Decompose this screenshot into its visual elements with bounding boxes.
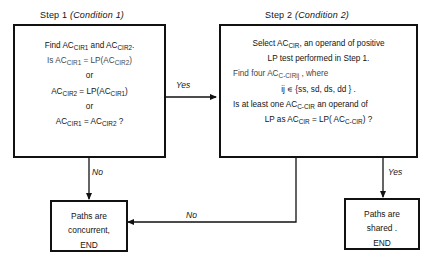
terminal-shared-box[interactable]: Paths are shared . END — [344, 198, 420, 250]
step1-line-1: Find ACCIR1 and ACCIR2. — [15, 42, 164, 50]
terminal-concurrent-text: Paths are concurrent, END — [52, 212, 126, 255]
step1-box[interactable]: Find ACCIR1 and ACCIR2. Is ACCIR1 = LP(A… — [13, 24, 166, 158]
step2-title: Step 2 — [265, 10, 292, 20]
terminal-shared-line-3: END — [346, 239, 418, 247]
step2-line-2: LP test performed in Step 1. — [221, 55, 416, 63]
step1-body: Find ACCIR1 and ACCIR2. Is ACCIR1 = LP(A… — [15, 42, 164, 126]
step2-body: Select ACCIR, an operand of positive LP … — [221, 40, 416, 124]
flowchart-canvas: Step 1 (Condition 1) Step 2 (Condition 2… — [0, 0, 432, 263]
step2-line-6: LP as ACCIR = LP( ACC-CIR) ? — [221, 116, 416, 124]
edge-label-yes-step1-step2: Yes — [176, 80, 190, 90]
step1-condition: (Condition 1) — [70, 10, 124, 20]
terminal-concurrent-line-2: concurrent, — [52, 226, 126, 234]
terminal-shared-line-1: Paths are — [346, 210, 418, 218]
step2-condition: (Condition 2) — [295, 10, 349, 20]
step2-line-4: ij ∊ {ss, sd, ds, dd } . — [221, 86, 416, 94]
step1-line-2: Is ACCIR1 = LP(ACCIR2) — [15, 57, 164, 65]
step1-line-4: ACCIR1 = ACCIR2 ? — [15, 118, 164, 126]
terminal-shared-line-2: shared . — [346, 224, 418, 232]
terminal-concurrent-line-1: Paths are — [52, 212, 126, 220]
edge-label-yes-step2-shared: Yes — [388, 167, 402, 177]
step2-box[interactable]: Select ACCIR, an operand of positive LP … — [219, 24, 418, 158]
edge-label-no-step2-concurrent: No — [186, 210, 197, 220]
terminal-concurrent-line-3: END — [52, 241, 126, 249]
edge-label-no-step1-concurrent: No — [92, 167, 103, 177]
step1-or-1: or — [15, 72, 164, 80]
step2-line-5: Is at least one ACC-CIR an operand of — [221, 101, 416, 109]
step1-caption: Step 1 (Condition 1) — [40, 10, 124, 20]
step2-caption: Step 2 (Condition 2) — [265, 10, 349, 20]
terminal-concurrent-box[interactable]: Paths are concurrent, END — [50, 200, 128, 252]
step1-line-3: ACCIR2 = LP(ACCIR1) — [15, 88, 164, 96]
connector-step2-to-concurrent — [128, 158, 296, 222]
step2-line-1: Select ACCIR, an operand of positive — [221, 40, 416, 48]
step2-line-3: Find four ACC-CIRij , where — [221, 70, 416, 78]
terminal-shared-text: Paths are shared . END — [346, 210, 418, 253]
step1-or-2: or — [15, 103, 164, 111]
step1-title: Step 1 — [40, 10, 67, 20]
